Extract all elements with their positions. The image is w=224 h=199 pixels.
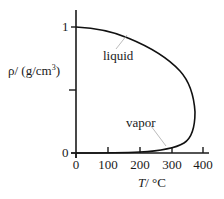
x-tick-label-100: 100: [98, 158, 118, 171]
liquid-label: liquid: [103, 49, 133, 62]
liquid-vapor-curve: [76, 27, 195, 153]
x-tick-label-400: 400: [193, 158, 213, 171]
x-tick-label-300: 300: [162, 158, 182, 171]
y-tick-label-0: 0: [62, 146, 69, 159]
liquid-leader-line: [116, 35, 127, 49]
x-tick-label-200: 200: [130, 158, 150, 171]
y-tick-label-1: 1: [62, 20, 69, 33]
vapor-label: vapor: [126, 116, 156, 129]
y-axis-label: ρ/ (g/cm3): [8, 64, 60, 77]
x-axis-label: T/ °C: [138, 176, 166, 189]
x-tick-label-0: 0: [73, 158, 80, 171]
